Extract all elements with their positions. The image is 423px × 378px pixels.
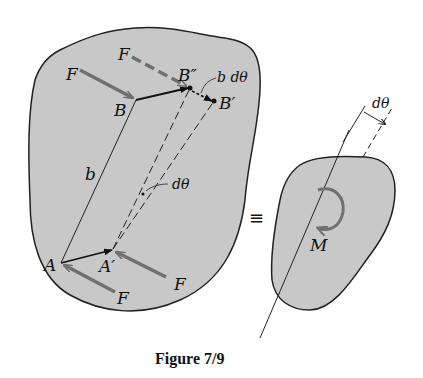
right-rigid-body <box>272 156 395 310</box>
label-point-Aprime: A′ <box>97 256 115 276</box>
axis-line-upper-solid <box>343 106 365 142</box>
figure-caption: Figure 7/9 <box>155 350 224 368</box>
point-Bprime <box>212 99 217 104</box>
label-length-b: b <box>85 164 96 184</box>
rotation-angle-arc <box>364 112 385 124</box>
label-point-Bprime: B′ <box>218 93 235 113</box>
label-point-A: A <box>42 255 56 275</box>
equivalence-symbol: ≡ <box>249 207 264 228</box>
label-point-Bdoubleprime: B″ <box>177 65 197 85</box>
label-right-dtheta: dθ <box>372 95 390 111</box>
label-force-bottom-left: F <box>116 288 130 308</box>
label-displacement-b-dtheta: b dθ <box>217 69 248 85</box>
label-moment-M: M <box>309 235 328 255</box>
label-rotation-dtheta: dθ <box>172 176 190 192</box>
point-Bdoubleprime <box>188 86 193 91</box>
label-force-top-dashed: F <box>117 44 131 64</box>
label-point-B: B <box>113 100 127 120</box>
label-force-bottom-right: F <box>173 274 187 294</box>
angle-marker-dot <box>142 193 145 196</box>
axis-line-rotated <box>363 108 392 157</box>
label-force-top-solid: F <box>65 64 79 84</box>
figure-canvas: F F B B″ b dθ B′ b dθ A A′ F F ≡ M dθ Fi… <box>0 0 423 378</box>
